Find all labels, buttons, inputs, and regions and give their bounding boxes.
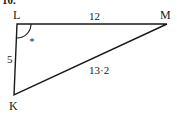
side-label-lm: 12 bbox=[89, 10, 100, 22]
side-label-lk: 5 bbox=[7, 53, 13, 65]
angle-marker: * bbox=[30, 36, 35, 47]
vertex-label-m: M bbox=[160, 8, 171, 22]
vertex-label-k: K bbox=[9, 99, 18, 113]
question-number: 10. bbox=[2, 0, 16, 6]
triangle-lmk bbox=[14, 24, 167, 95]
side-label-km: 13·2 bbox=[89, 64, 109, 76]
vertex-label-l: L bbox=[13, 8, 20, 22]
triangle-diagram: 10. * L M K 12 5 13·2 bbox=[0, 0, 177, 127]
